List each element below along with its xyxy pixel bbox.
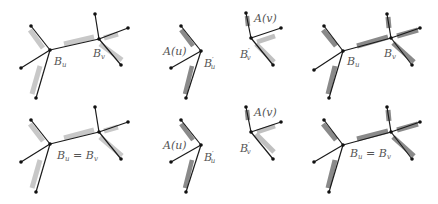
label-bv-prime: B′v xyxy=(239,141,251,156)
panel-top-1: Bu Bv xyxy=(19,12,130,100)
label-bv: Bv xyxy=(383,47,396,61)
label-bu-eq-bv: Bu = Bv xyxy=(56,149,98,163)
label-bu: Bu xyxy=(346,55,360,69)
label-au: A(u) xyxy=(162,139,187,152)
label-av: A(v) xyxy=(253,106,277,119)
label-bu: Bu xyxy=(53,55,67,69)
label-bv-prime: B′v xyxy=(239,47,251,62)
panel-bottom-1: Bu = Bv xyxy=(19,105,130,194)
label-av: A(v) xyxy=(253,12,277,25)
label-bu-prime: B′u xyxy=(203,56,216,71)
shadow-paths-light xyxy=(256,36,275,62)
panel-bottom-3: Bu = Bv xyxy=(312,105,422,194)
shadow-paths xyxy=(323,17,418,94)
panel-bottom-2: A(u) B′u A(v) B′v xyxy=(162,105,283,194)
shadow-paths xyxy=(30,30,122,94)
panel-top-3: Bu Bv xyxy=(312,12,422,100)
panel-top-2: A(u) B′u A(v) B′v xyxy=(162,11,283,100)
label-au: A(u) xyxy=(162,45,187,58)
label-bu-prime: B′u xyxy=(203,150,216,165)
tree-diagram: Bu Bv A(u) B′u A(v) B′v xyxy=(0,0,438,204)
label-bu-eq-bv: Bu = Bv xyxy=(349,147,391,161)
